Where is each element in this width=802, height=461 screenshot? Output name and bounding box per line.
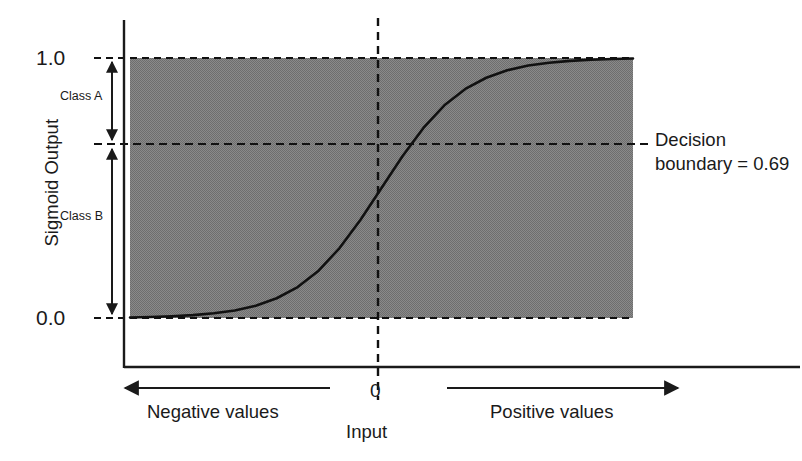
decision-annotation-line-2: boundary = 0.69 (655, 153, 789, 174)
x-axis-tick-label-zero: 0 (370, 380, 381, 402)
y-axis-tick-label-top: 1.0 (36, 46, 65, 70)
class-b-label: Class B (60, 209, 103, 224)
negative-values-label: Negative values (147, 401, 279, 422)
decision-annotation-line-1: Decision (655, 129, 726, 150)
x-axis-title: Input (346, 421, 387, 442)
sigmoid-decision-boundary-figure: 1.0 0.0 Class A Class B Sigmoid Output D… (0, 0, 802, 461)
chart-canvas (0, 0, 802, 461)
decision-boundary-annotation: Decisionboundary = 0.69 (655, 128, 789, 176)
y-axis-title: Sigmoid Output (41, 83, 62, 283)
y-axis-tick-label-bottom: 0.0 (36, 306, 65, 330)
class-a-label: Class A (60, 89, 102, 104)
positive-values-label: Positive values (490, 401, 613, 422)
